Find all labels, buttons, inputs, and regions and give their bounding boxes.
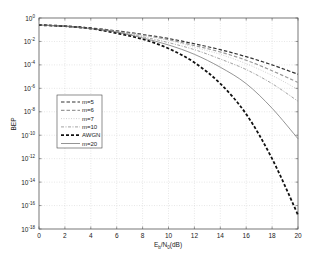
legend-label-awgn: AWGN	[82, 132, 100, 138]
x-tick-label: 18	[268, 232, 276, 239]
x-tick-label: 10	[165, 232, 173, 239]
legend: m=5m=6m=7m=10AWGNm=20	[57, 95, 102, 148]
y-tick-label: 10-6	[24, 84, 36, 92]
x-tick-label: 16	[243, 232, 251, 239]
x-tick-label: 6	[115, 232, 119, 239]
ber-chart: 02468101214161820 10010-210-410-610-810-…	[0, 0, 316, 259]
x-tick-label: 12	[191, 232, 199, 239]
y-tick-label: 10-12	[21, 154, 35, 162]
y-tick-label: 10-4	[24, 60, 36, 68]
legend-label-m-10: m=10	[82, 124, 98, 130]
series-line-m-5	[39, 25, 298, 74]
legend-label-m-20: m=20	[82, 141, 98, 147]
y-tick-label: 10-18	[21, 225, 35, 233]
x-tick-label: 0	[37, 232, 41, 239]
legend-label-m-7: m=7	[82, 116, 95, 122]
y-tick-label: 10-10	[21, 131, 35, 139]
x-tick-label: 14	[217, 232, 225, 239]
y-tick-label: 10-16	[21, 201, 35, 209]
y-tick-label: 10-8	[24, 107, 36, 115]
legend-label-m-5: m=5	[82, 99, 95, 105]
x-tick-label: 2	[63, 232, 67, 239]
legend-label-m-6: m=6	[82, 107, 95, 113]
y-tick-label: 10-14	[21, 178, 35, 186]
y-tick-label: 100	[25, 14, 35, 22]
y-tick-label: 10-2	[24, 37, 36, 45]
series-line-m-7	[39, 25, 298, 89]
x-axis-label: Eb/N0(dB)	[154, 241, 182, 250]
x-label-unit: (dB)	[170, 241, 182, 249]
x-tick-label: 4	[89, 232, 93, 239]
x-tick-label: 8	[141, 232, 145, 239]
x-tick-label: 20	[294, 232, 302, 239]
y-axis-label: BEP	[10, 117, 17, 130]
